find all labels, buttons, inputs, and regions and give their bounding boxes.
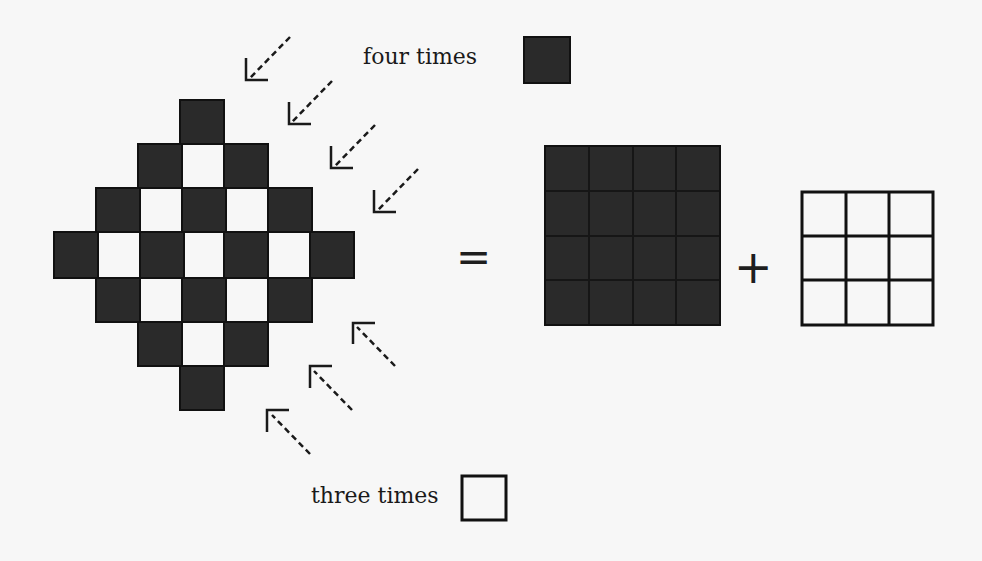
dashed-arrow-icon	[353, 323, 395, 366]
dashed-arrow-icon	[246, 37, 290, 80]
dashed-arrow-icon	[374, 169, 418, 212]
four-times-label: four times	[363, 44, 477, 69]
three-times-label: three times	[311, 483, 439, 508]
diagram-canvas	[0, 0, 982, 561]
dashed-arrow-icon	[331, 125, 375, 168]
diamond-figure	[54, 100, 354, 410]
dashed-arrow-icon	[310, 366, 352, 410]
arrows-bottom-right	[267, 323, 395, 454]
light-square-3x3	[802, 192, 933, 325]
dark-tile-legend-icon	[524, 37, 570, 83]
light-tile-legend-icon	[462, 476, 506, 520]
dark-square-4x4	[545, 146, 720, 325]
dashed-arrow-icon	[289, 81, 332, 124]
plus-sign: +	[734, 244, 773, 290]
equals-sign: =	[456, 236, 491, 278]
dashed-arrow-icon	[267, 410, 310, 454]
